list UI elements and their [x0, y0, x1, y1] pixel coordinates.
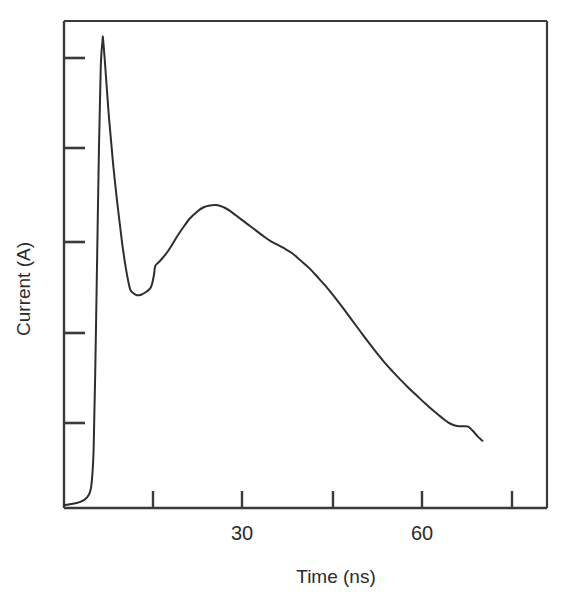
current-vs-time-chart: 30 60 Time (ns) Current (A) [0, 0, 568, 600]
chart-background [0, 0, 568, 600]
x-tick-label-60: 60 [411, 522, 433, 544]
x-axis-title: Time (ns) [296, 566, 376, 587]
y-axis-title: Current (A) [13, 242, 34, 336]
x-tick-label-30: 30 [231, 522, 253, 544]
